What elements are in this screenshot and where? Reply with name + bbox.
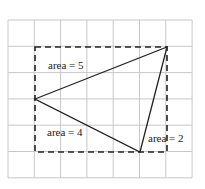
label-area-bottom-left: area = 4: [47, 126, 83, 138]
label-area-top: area = 5: [48, 59, 84, 71]
triangle-area-diagram: area = 5 area = 4 area = 2: [0, 0, 205, 189]
label-area-right: area = 2: [148, 132, 184, 144]
